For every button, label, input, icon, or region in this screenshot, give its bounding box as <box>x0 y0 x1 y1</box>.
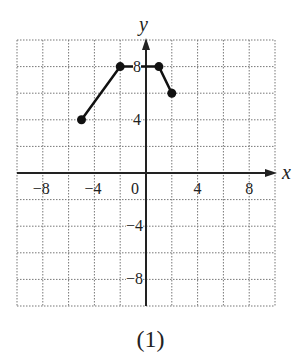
x-axis-label: x <box>282 162 291 182</box>
x-tick-label: 4 <box>194 181 202 197</box>
x-tick-label: −4 <box>84 181 101 197</box>
data-point <box>116 62 125 71</box>
x-tick-label: 0 <box>131 181 139 197</box>
x-tick-label: 8 <box>245 181 253 197</box>
data-point <box>77 115 86 124</box>
figure-caption: (1) <box>0 326 301 353</box>
y-tick-label: 4 <box>133 112 141 128</box>
y-tick-label: 8 <box>133 59 141 75</box>
y-tick-label: −8 <box>126 271 143 287</box>
x-tick-label: −8 <box>33 181 50 197</box>
data-point <box>154 62 163 71</box>
data-point <box>167 89 176 98</box>
y-axis-label: y <box>139 14 148 34</box>
y-tick-label: −4 <box>126 218 143 234</box>
